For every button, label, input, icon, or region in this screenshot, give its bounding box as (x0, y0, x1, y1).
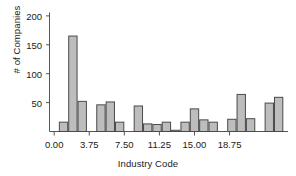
histogram-bar (106, 102, 114, 132)
histogram-bar (144, 124, 152, 132)
x-tick-label: 18.75 (218, 139, 242, 150)
x-tick-label: 15.00 (183, 139, 207, 150)
histogram-bar (162, 122, 170, 131)
y-tick-label: 100 (26, 68, 42, 79)
histogram-bar (59, 122, 67, 131)
histogram-figure: # of Companies 50100150200 0.003.757.501… (0, 0, 296, 176)
y-tick-label: 200 (26, 10, 42, 21)
histogram-bar (181, 122, 189, 131)
histogram-bar (274, 97, 282, 131)
x-tick-label: 3.75 (80, 139, 99, 150)
histogram-bar (115, 122, 123, 131)
histogram-bar (69, 36, 77, 131)
y-tick-labels: 50100150200 (14, 0, 42, 176)
histogram-bar (134, 106, 142, 132)
histogram-bar (190, 109, 198, 132)
x-tick-label: 0.00 (45, 139, 64, 150)
histogram-bar (209, 122, 217, 131)
histogram-bar (172, 130, 180, 131)
y-tick-label: 50 (31, 97, 42, 108)
histogram-bar (200, 120, 208, 132)
histogram-bar (153, 124, 161, 131)
x-tick-label: 11.25 (148, 139, 171, 150)
histogram-bar (228, 119, 236, 131)
histogram-bar (265, 103, 273, 131)
histogram-bar (97, 105, 105, 132)
y-tick-label: 150 (26, 39, 42, 50)
histogram-bar (237, 94, 245, 131)
x-axis-label: Industry Code (0, 158, 296, 169)
x-tick-label: 7.50 (115, 139, 134, 150)
histogram-bar (78, 101, 86, 131)
histogram-bar (246, 119, 254, 132)
